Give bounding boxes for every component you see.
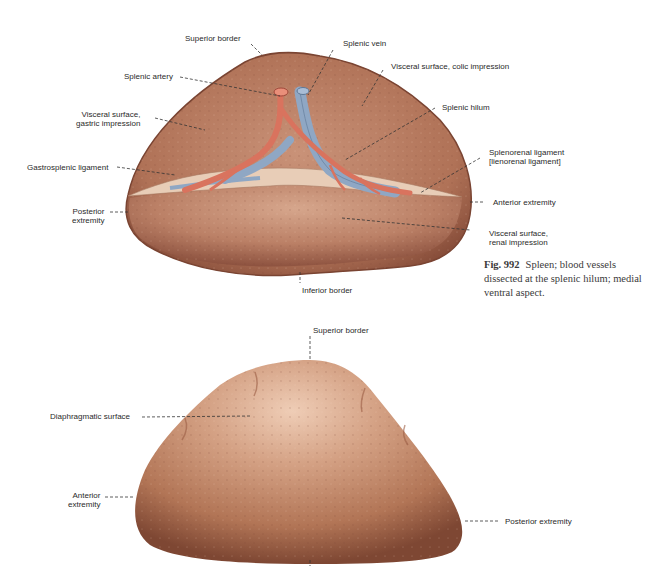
bottom-spleen xyxy=(135,360,462,564)
label-posterior-extremity-bottom: Posterior extremity xyxy=(505,517,572,526)
label-splenic-hilum: Splenic hilum xyxy=(442,103,490,112)
label-diaphragmatic-surface: Diaphragmatic surface xyxy=(50,412,130,421)
label-anterior-extremity-bottom: Anterior extremity xyxy=(68,491,100,509)
label-visceral-renal: Visceral surface, renal impression xyxy=(489,229,548,247)
label-splenic-vein: Splenic vein xyxy=(343,39,386,48)
label-visceral-gastric: Visceral surface, gastric impression xyxy=(76,110,140,128)
label-superior-border-top: Superior border xyxy=(185,34,241,43)
label-anterior-extremity-top: Anterior extremity xyxy=(493,198,556,207)
label-splenic-artery: Splenic artery xyxy=(124,72,173,81)
label-splenorenal-ligament: Splenorenal ligament [lienorenal ligamen… xyxy=(489,148,564,166)
top-spleen xyxy=(126,53,471,276)
label-inferior-border: Inferior border xyxy=(302,286,352,295)
label-superior-border-bottom: Superior border xyxy=(313,326,369,335)
figure-number: Fig. 992 xyxy=(484,259,520,270)
label-gastrosplenic-ligament: Gastrosplenic ligament xyxy=(27,163,108,172)
label-posterior-extremity-top: Posterior extremity xyxy=(72,207,104,225)
label-visceral-colic: Visceral surface, colic impression xyxy=(391,62,509,71)
figure-caption: Fig. 992Spleen; blood vessels dissected … xyxy=(484,258,651,300)
